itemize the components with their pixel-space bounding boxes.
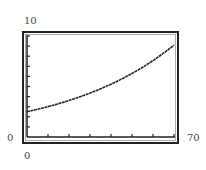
plot-frame xyxy=(23,32,178,143)
axis-ticks xyxy=(27,36,174,137)
chart-plot xyxy=(0,0,206,170)
axes xyxy=(27,35,175,137)
data-curve xyxy=(27,45,174,112)
